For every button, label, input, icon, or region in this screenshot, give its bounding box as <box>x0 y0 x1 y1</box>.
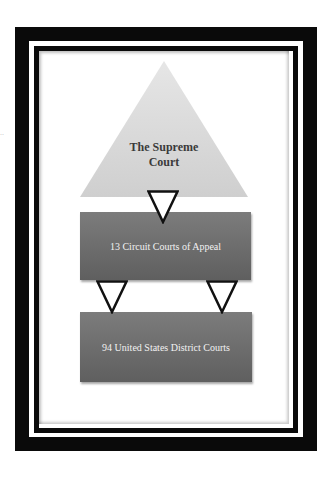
down-triangle-arrow-icon <box>147 190 179 224</box>
supreme-court-label: The Supreme Court <box>115 140 213 170</box>
district-courts-box: 94 United States District Courts <box>80 312 252 382</box>
district-courts-label: 94 United States District Courts <box>102 342 230 353</box>
supreme-court-label-line2: Court <box>115 155 213 170</box>
supreme-court-label-line1: The Supreme <box>115 140 213 155</box>
down-triangle-arrow-icon <box>206 280 238 314</box>
circuit-courts-label: 13 Circuit Courts of Appeal <box>110 241 221 252</box>
supreme-court-triangle <box>80 61 248 197</box>
down-triangle-arrow-icon <box>96 280 128 314</box>
margin-mark: ·· <box>0 132 4 138</box>
